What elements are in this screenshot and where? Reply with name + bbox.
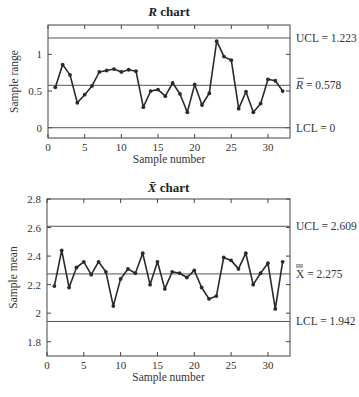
data-point [141,251,145,255]
data-point [214,294,218,298]
y-tick-label: 2.4 [27,250,41,262]
data-point [83,93,87,97]
y-tick-label: 2.6 [27,222,41,234]
x-tick-label: 15 [152,359,164,371]
data-point [200,103,204,107]
plot-frame [48,25,290,138]
data-point [105,69,109,73]
data-point [53,85,57,89]
data-point [266,77,270,81]
x-tick-label: 20 [189,141,201,153]
x-tick-label: 25 [226,141,238,153]
data-point [207,297,211,301]
y-tick-label: 0 [37,122,43,134]
data-point [207,91,211,95]
data-point [259,271,263,275]
data-point [97,70,101,74]
data-point [52,284,56,288]
chart-title: R chart [147,4,190,19]
data-point [192,268,196,272]
data-point [229,258,233,262]
data-point [75,266,79,270]
y-tick-label: 0.5 [28,85,42,97]
x-tick-label: 25 [226,359,238,371]
data-point [171,81,175,85]
data-point [163,94,167,98]
plot-frame [47,199,290,356]
data-point [148,283,152,287]
data-point [215,39,219,43]
data-point [259,102,263,106]
data-point [200,286,204,290]
data-point [104,270,108,274]
data-point [185,276,189,280]
data-point [149,89,153,93]
data-point [141,105,145,109]
data-point [127,68,131,72]
data-point [222,256,226,260]
control-label-center: R = 0.578 [295,79,341,91]
x-tick-label: 0 [44,359,50,371]
data-point [178,271,182,275]
xbar-chart: X̄ chart0510152025301.822.22.42.62.8Samp… [7,180,357,384]
data-point [185,110,189,114]
data-point [251,283,255,287]
y-tick-label: 1.8 [27,336,41,348]
control-charts-figure: R chart05101520253000.51Sample numberSam… [0,0,359,397]
data-point [163,287,167,291]
data-point [133,271,137,275]
x-tick-label: 5 [81,359,87,371]
data-point [68,73,72,77]
data-point [119,70,123,74]
data-point [273,79,277,83]
x-tick-label: 0 [45,141,51,153]
control-label-lcl: LCL = 1.942 [296,315,356,327]
x-tick-label: 20 [189,359,201,371]
data-point [178,92,182,96]
data-point [112,67,116,71]
data-point [244,251,248,255]
data-point [111,304,115,308]
control-label-ucl: UCL = 2.609 [296,220,357,232]
x-tick-label: 10 [116,141,128,153]
data-series-line [55,41,282,112]
data-point [126,267,130,271]
data-point [266,261,270,265]
r-chart: R chart05101520253000.51Sample numberSam… [8,4,357,166]
data-point [119,277,123,281]
y-tick-label: 2 [36,307,42,319]
data-point [67,286,71,290]
data-point [237,267,241,271]
x-tick-label: 30 [262,359,274,371]
control-label-lcl: LCL = 0 [296,122,336,134]
data-point [222,55,226,59]
data-point [229,58,233,62]
y-tick-label: 1 [37,48,43,60]
x-tick-label: 15 [153,141,165,153]
data-point [60,248,64,252]
control-label-center: X = 2.275 [296,268,343,280]
data-point [273,307,277,311]
data-point [281,89,285,93]
data-point [75,101,79,105]
x-axis-label: Sample number [133,153,206,166]
data-point [193,83,197,87]
data-series-line [54,250,282,309]
data-point [97,260,101,264]
data-point [90,84,94,88]
y-tick-label: 2.8 [27,193,41,205]
data-point [281,260,285,264]
data-point [134,69,138,73]
data-point [237,107,241,111]
y-axis-label: Sample mean [7,246,20,309]
data-point [170,270,174,274]
data-point [89,273,93,277]
x-tick-label: 10 [115,359,127,371]
control-label-ucl: UCL = 1.223 [296,32,357,44]
data-point [156,260,160,264]
chart-canvas: R chart05101520253000.51Sample numberSam… [0,0,359,397]
data-point [61,63,65,67]
chart-title: X̄ chart [147,180,190,195]
x-axis-label: Sample number [132,371,205,384]
data-point [244,90,248,94]
